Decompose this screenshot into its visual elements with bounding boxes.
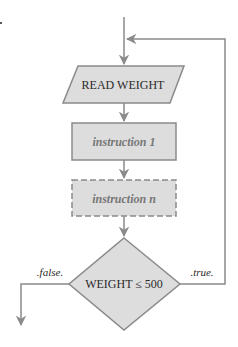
decision-label: WEIGHT ≤ 500	[85, 277, 163, 291]
read-weight-label: READ WEIGHT	[82, 78, 165, 92]
false-branch-arrow	[21, 284, 69, 325]
instruction-1-label: instruction 1	[92, 135, 155, 149]
instruction-1-node: instruction 1	[72, 123, 176, 160]
read-weight-node: READ WEIGHT	[63, 66, 184, 103]
false-label: .false.	[37, 266, 63, 278]
margin-mark	[0, 22, 2, 24]
instruction-n-node: instruction n	[72, 180, 176, 216]
flowchart: READ WEIGHT instruction 1 instruction n …	[0, 0, 238, 347]
true-label: .true.	[190, 266, 213, 278]
decision-node: WEIGHT ≤ 500	[69, 238, 180, 330]
instruction-n-label: instruction n	[92, 192, 156, 206]
